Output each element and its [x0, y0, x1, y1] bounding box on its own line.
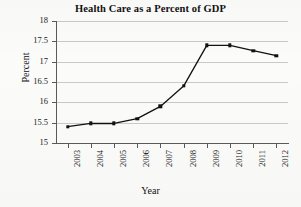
data-point-marker — [182, 84, 185, 87]
data-point-marker — [135, 117, 138, 120]
data-point-marker — [89, 122, 92, 125]
data-point-marker — [251, 49, 254, 52]
data-point-marker — [159, 105, 162, 108]
data-series-line — [0, 0, 301, 207]
data-point-marker — [112, 122, 115, 125]
data-point-marker — [228, 44, 231, 47]
data-point-marker — [205, 44, 208, 47]
chart-figure: Health Care as a Percent of GDP Percent … — [0, 0, 301, 207]
data-point-marker — [275, 54, 278, 57]
data-point-marker — [66, 125, 69, 128]
